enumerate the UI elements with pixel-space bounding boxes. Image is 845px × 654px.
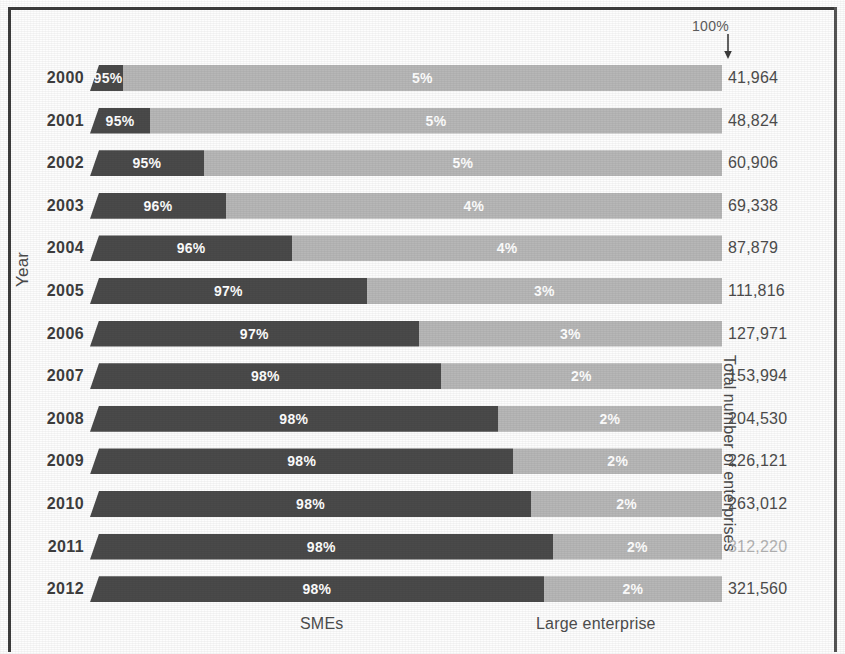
chart-row: 200898%2%204,530 bbox=[0, 400, 845, 438]
stacked-bar[interactable] bbox=[90, 491, 722, 517]
stacked-bar[interactable] bbox=[90, 406, 722, 432]
row-year-label: 2012 bbox=[24, 580, 84, 598]
bar-segment-smes[interactable] bbox=[90, 193, 226, 219]
bar-segment-large-enterprise[interactable] bbox=[531, 491, 722, 517]
bar-segment-smes[interactable] bbox=[90, 406, 498, 432]
bar-segment-large-enterprise[interactable] bbox=[544, 576, 722, 602]
row-total-label: 41,964 bbox=[728, 69, 778, 87]
chart-row: 201098%2%263,012 bbox=[0, 485, 845, 523]
bar-segment-smes[interactable] bbox=[90, 534, 553, 560]
row-year-label: 2009 bbox=[24, 452, 84, 470]
stacked-bar[interactable] bbox=[90, 150, 722, 176]
bar-segment-large-enterprise[interactable] bbox=[226, 193, 722, 219]
row-total-label: 226,121 bbox=[728, 452, 787, 470]
bar-segment-smes[interactable] bbox=[90, 576, 544, 602]
stacked-bar[interactable] bbox=[90, 65, 722, 91]
stacked-bar[interactable] bbox=[90, 193, 722, 219]
stacked-bar[interactable] bbox=[90, 108, 722, 134]
stacked-bar[interactable] bbox=[90, 448, 722, 474]
row-year-label: 2000 bbox=[24, 69, 84, 87]
chart-row: 200195%5%48,824 bbox=[0, 102, 845, 140]
chart-row: 200597%3%111,816 bbox=[0, 272, 845, 310]
row-total-label: 312,220 bbox=[728, 538, 787, 556]
bar-segment-smes[interactable] bbox=[90, 65, 123, 91]
bar-segment-large-enterprise[interactable] bbox=[498, 406, 722, 432]
bar-segment-smes[interactable] bbox=[90, 235, 292, 261]
bar-segment-smes[interactable] bbox=[90, 491, 531, 517]
stacked-bar[interactable] bbox=[90, 363, 722, 389]
plot-area: 200095%5%41,964200195%5%48,824200295%5%6… bbox=[0, 0, 845, 654]
legend-item-smes: SMEs bbox=[300, 615, 343, 633]
row-year-label: 2010 bbox=[24, 495, 84, 513]
row-year-label: 2003 bbox=[24, 197, 84, 215]
row-total-label: 60,906 bbox=[728, 154, 778, 172]
bar-segment-smes[interactable] bbox=[90, 150, 204, 176]
chart-row: 200095%5%41,964 bbox=[0, 59, 845, 97]
row-total-label: 87,879 bbox=[728, 239, 778, 257]
row-total-label: 69,338 bbox=[728, 197, 778, 215]
row-total-label: 263,012 bbox=[728, 495, 787, 513]
chart-row: 200798%2%153,994 bbox=[0, 357, 845, 395]
bar-segment-large-enterprise[interactable] bbox=[419, 321, 722, 347]
bar-segment-large-enterprise[interactable] bbox=[150, 108, 722, 134]
bar-segment-large-enterprise[interactable] bbox=[204, 150, 722, 176]
row-year-label: 2005 bbox=[24, 282, 84, 300]
row-year-label: 2001 bbox=[24, 112, 84, 130]
row-year-label: 2002 bbox=[24, 154, 84, 172]
bar-segment-large-enterprise[interactable] bbox=[441, 363, 722, 389]
chart-figure: 100% Year Total number of enterprises 20… bbox=[0, 0, 845, 654]
legend: SMEs Large enterprise bbox=[0, 615, 845, 639]
legend-item-large-enterprise: Large enterprise bbox=[536, 615, 656, 633]
chart-row: 200396%4%69,338 bbox=[0, 187, 845, 225]
bar-segment-large-enterprise[interactable] bbox=[123, 65, 722, 91]
stacked-bar[interactable] bbox=[90, 321, 722, 347]
bar-segment-smes[interactable] bbox=[90, 363, 441, 389]
row-total-label: 321,560 bbox=[728, 580, 787, 598]
bar-segment-smes[interactable] bbox=[90, 278, 367, 304]
chart-row: 201198%2%312,220 bbox=[0, 528, 845, 566]
bar-segment-smes[interactable] bbox=[90, 108, 150, 134]
bar-segment-large-enterprise[interactable] bbox=[513, 448, 722, 474]
stacked-bar[interactable] bbox=[90, 235, 722, 261]
row-year-label: 2006 bbox=[24, 325, 84, 343]
stacked-bar[interactable] bbox=[90, 534, 722, 560]
bar-segment-large-enterprise[interactable] bbox=[292, 235, 722, 261]
row-total-label: 127,971 bbox=[728, 325, 787, 343]
chart-row: 201298%2%321,560 bbox=[0, 570, 845, 608]
bar-segment-smes[interactable] bbox=[90, 448, 513, 474]
bar-segment-large-enterprise[interactable] bbox=[367, 278, 722, 304]
row-year-label: 2008 bbox=[24, 410, 84, 428]
stacked-bar[interactable] bbox=[90, 278, 722, 304]
row-year-label: 2007 bbox=[24, 367, 84, 385]
row-year-label: 2004 bbox=[24, 239, 84, 257]
bar-segment-large-enterprise[interactable] bbox=[553, 534, 722, 560]
chart-row: 200998%2%226,121 bbox=[0, 442, 845, 480]
stacked-bar[interactable] bbox=[90, 576, 722, 602]
chart-row: 200697%3%127,971 bbox=[0, 315, 845, 353]
row-total-label: 204,530 bbox=[728, 410, 787, 428]
row-total-label: 153,994 bbox=[728, 367, 787, 385]
row-year-label: 2011 bbox=[24, 538, 84, 556]
row-total-label: 111,816 bbox=[728, 282, 785, 300]
bar-segment-smes[interactable] bbox=[90, 321, 419, 347]
chart-row: 200496%4%87,879 bbox=[0, 229, 845, 267]
chart-row: 200295%5%60,906 bbox=[0, 144, 845, 182]
row-total-label: 48,824 bbox=[728, 112, 778, 130]
